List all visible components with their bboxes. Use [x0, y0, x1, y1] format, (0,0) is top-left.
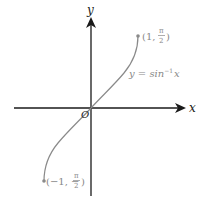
endpoint-lower-num: π: [74, 172, 79, 180]
function-label: y = sin−1x: [128, 67, 180, 79]
endpoint-upper-open: (1,: [142, 31, 155, 42]
endpoint-lower-close: ): [81, 176, 85, 187]
y-axis-label: y: [86, 3, 94, 17]
inverse-sine-graph: y x O y = sin−1x (1, π 2 ) (−1, − π 2 ): [0, 0, 205, 205]
endpoint-upper-den: 2: [159, 37, 163, 45]
endpoint-upper-num: π: [159, 27, 164, 35]
origin-label: O: [81, 109, 89, 120]
function-label-var: x: [174, 68, 180, 79]
endpoint-lower-label: (−1, − π 2 ): [46, 172, 85, 190]
endpoint-lower-den: 2: [74, 182, 78, 190]
x-axis-label: x: [189, 101, 196, 115]
endpoint-upper-dot: [136, 34, 140, 38]
endpoint-upper-close: ): [166, 31, 170, 42]
endpoint-upper-label: (1, π 2 ): [142, 27, 170, 45]
graph-svg: y x O y = sin−1x (1, π 2 ) (−1, − π 2 ): [0, 0, 205, 205]
function-label-sup: −1: [164, 67, 173, 74]
function-label-lhs: y = sin: [128, 68, 164, 79]
